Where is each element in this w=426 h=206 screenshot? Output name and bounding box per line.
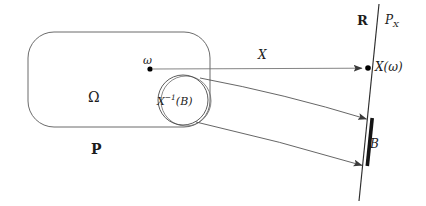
real-line-label: R (357, 14, 368, 27)
omega-point-dot (147, 66, 152, 71)
pushforward-subscript: X (393, 19, 399, 29)
real-line (359, 4, 379, 201)
preimage-set-label: X−1(B) (157, 94, 193, 107)
preimage-argument: (B) (176, 95, 193, 108)
preimage-exponent: −1 (165, 93, 176, 102)
image-point-dot (365, 65, 371, 71)
sample-space-label: Ω (88, 90, 100, 104)
random-variable-diagram: ω Ω P X−1(B) X R PX X(ω) B (0, 0, 426, 206)
preimage-upper-arrow (200, 78, 367, 119)
diagram-canvas (0, 0, 426, 206)
image-point-label: X(ω) (375, 61, 403, 73)
pushforward-base: P (385, 13, 393, 27)
sample-space-boundary (28, 32, 210, 127)
pushforward-measure-label: PX (385, 14, 399, 29)
borel-set-label: B (370, 138, 379, 150)
omega-point-label: ω (143, 55, 152, 66)
preimage-base: X (157, 95, 165, 108)
preimage-lower-arrow (196, 122, 362, 165)
probability-measure-label: P (91, 142, 102, 156)
map-label: X (258, 49, 267, 61)
map-arrow (153, 68, 362, 69)
